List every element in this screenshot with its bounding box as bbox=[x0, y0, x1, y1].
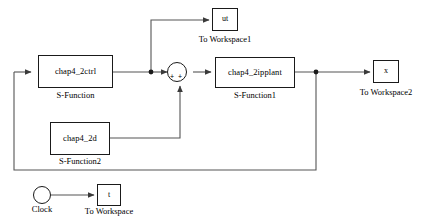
block-controller[interactable]: chap4_2ctrl bbox=[38, 55, 113, 88]
block-to-workspace-ut[interactable]: ut bbox=[212, 8, 238, 31]
sum-sign-bottom: + bbox=[178, 73, 182, 80]
block-disturbance-label: chap4_2d bbox=[63, 134, 97, 143]
block-to-workspace-t[interactable]: t bbox=[97, 184, 121, 206]
caption-disturbance: S-Function2 bbox=[46, 157, 114, 166]
block-controller-label: chap4_2ctrl bbox=[55, 67, 96, 76]
block-plant[interactable]: chap4_2ipplant bbox=[215, 57, 295, 88]
sum-sign-left: + bbox=[170, 73, 174, 80]
block-plant-label: chap4_2ipplant bbox=[228, 68, 282, 77]
block-to-workspace-x-label: x bbox=[384, 67, 388, 75]
caption-to-workspace-ut: To Workspace1 bbox=[188, 35, 262, 44]
block-disturbance[interactable]: chap4_2d bbox=[50, 122, 110, 155]
caption-to-workspace-x: To Workspace2 bbox=[349, 88, 423, 97]
signal-wires bbox=[0, 0, 423, 218]
block-clock[interactable] bbox=[33, 186, 51, 204]
caption-clock: Clock bbox=[20, 205, 64, 214]
wire-disturbance-to-sum bbox=[110, 86, 180, 138]
block-to-workspace-ut-label: ut bbox=[222, 15, 228, 23]
junction-dot-controller-output bbox=[149, 70, 154, 75]
block-to-workspace-t-label: t bbox=[108, 191, 110, 199]
caption-plant: S-Function1 bbox=[215, 91, 295, 100]
simulink-diagram-canvas: chap4_2ctrl S-Function chap4_2ipplant S-… bbox=[0, 0, 423, 218]
block-to-workspace-x[interactable]: x bbox=[373, 60, 399, 83]
caption-to-workspace-t: To Workspace bbox=[73, 207, 145, 216]
junction-dot-plant-output bbox=[314, 70, 319, 75]
caption-controller: S-Function bbox=[38, 91, 113, 100]
